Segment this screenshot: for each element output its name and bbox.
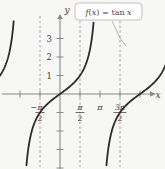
half-pi-denominator: 2: [78, 114, 83, 123]
callout-close-paren: ): [96, 7, 99, 17]
callout-fn: tan: [111, 7, 125, 17]
callout-group: f(x)=tanx: [75, 3, 142, 20]
tangent-function-figure: x y 3 2 1: [0, 0, 165, 169]
callout-arg: x: [127, 7, 132, 17]
y-tick-label-3: 3: [47, 34, 52, 44]
callout-equals: =: [102, 7, 109, 17]
half-pi-numerator: π: [77, 103, 84, 112]
y-tick-label-1: 1: [47, 71, 52, 81]
tangent-plot-svg: x y 3 2 1: [0, 0, 165, 169]
neg-half-pi-minus: −: [31, 103, 38, 112]
callout-label: f(x)=tanx: [84, 7, 131, 17]
x-axis-label: x: [155, 90, 160, 100]
pi-label: π: [96, 102, 103, 112]
y-tick-label-2: 2: [47, 52, 52, 62]
x-tick-label-pi: π: [96, 102, 103, 112]
y-axis-label: y: [63, 5, 70, 15]
figure-background: [0, 0, 165, 169]
